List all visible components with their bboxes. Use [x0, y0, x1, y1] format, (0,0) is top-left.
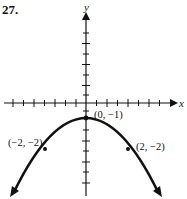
x-axis-label: x — [178, 97, 184, 109]
x-axis — [4, 99, 176, 107]
y-axis — [82, 14, 90, 196]
right-point — [126, 147, 130, 151]
left-point — [43, 147, 47, 151]
y-axis-label: y — [83, 1, 89, 13]
left-point-label: (−2, −2) — [8, 137, 43, 149]
vertex-label: (0, −1) — [94, 109, 123, 121]
vertex-point — [84, 116, 89, 121]
left-arrowhead-icon — [10, 186, 19, 197]
right-arrowhead-icon — [153, 186, 162, 197]
right-point-label: (2, −2) — [136, 141, 165, 153]
parabola-graph: x y (0, −1) (−2, −2) (2, −2) — [0, 0, 187, 199]
